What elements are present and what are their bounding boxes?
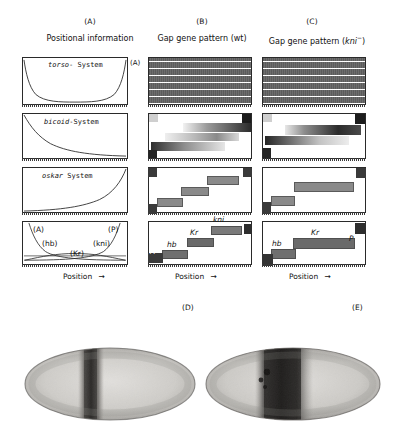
axis-label-b-text: Position bbox=[175, 272, 204, 281]
axis-label-c-text: Position bbox=[289, 272, 318, 281]
label-oskar-system: oskar System bbox=[42, 172, 93, 180]
panel-torso-baseline bbox=[22, 104, 128, 107]
kni-gene-label-hb: hb bbox=[272, 239, 282, 248]
embryo-tag-d: (D) bbox=[182, 303, 194, 312]
figure-root: (A) (B) (C) Positional information Gap g… bbox=[0, 0, 400, 446]
wt-step-kni bbox=[207, 176, 239, 185]
axis-label-c: Position → bbox=[289, 272, 331, 281]
kni-grad-ant-tip bbox=[263, 114, 272, 122]
kni-gene-label-p: P bbox=[349, 234, 354, 243]
axis-arrow-b-icon: → bbox=[211, 272, 217, 281]
label-bicoid-system: bicoid-System bbox=[44, 118, 99, 126]
column-tag-a: (A) bbox=[40, 17, 140, 26]
panel-kni-stripes bbox=[262, 57, 366, 105]
kni-grad-hb bbox=[265, 136, 349, 145]
embryo-d-svg bbox=[22, 330, 198, 438]
label-oskar-name: oskar bbox=[42, 172, 63, 180]
wt-grad-post-tip bbox=[242, 114, 251, 123]
kni-gene-label-kr: Kr bbox=[311, 228, 319, 237]
wt-gene-block-p bbox=[244, 224, 252, 234]
kni-grad-post-tip bbox=[355, 114, 365, 124]
summary-label-kni: (kni) bbox=[93, 239, 110, 248]
summary-label-hb: (hb) bbox=[42, 239, 57, 248]
panel-oskar-baseline bbox=[22, 212, 128, 215]
label-torso-name: torso bbox=[48, 61, 69, 69]
column-title-c: Gap gene pattern (kni−) bbox=[242, 34, 392, 46]
embryo-image-e bbox=[203, 330, 383, 438]
panel-wt-genes bbox=[148, 221, 252, 265]
kni-grad-kr bbox=[285, 125, 361, 135]
wt-grad-kr bbox=[165, 133, 239, 141]
kni-step-hb bbox=[271, 196, 295, 206]
wt-gene-block-hb bbox=[162, 250, 188, 259]
axis-label-b: Position → bbox=[175, 272, 217, 281]
wt-grad-ant-tip bbox=[149, 114, 158, 122]
panel-a-corner-tag: (A) bbox=[130, 59, 140, 67]
column-title-c-suffix: ) bbox=[362, 37, 365, 46]
axis-arrow-a-icon: → bbox=[99, 272, 105, 281]
wt-gene-label-kr: Kr bbox=[190, 228, 198, 237]
column-tag-b: (B) bbox=[152, 17, 252, 26]
label-torso-suffix: - System bbox=[69, 61, 103, 69]
panel-wt-staircase bbox=[148, 167, 252, 213]
wt-grad-kni bbox=[183, 123, 251, 132]
label-bicoid-name: bicoid bbox=[44, 118, 69, 126]
kni-gene-block-kr bbox=[293, 238, 355, 249]
wt-gene-block-kni bbox=[211, 226, 242, 235]
axis-label-a: Position → bbox=[63, 272, 105, 281]
kni-gene-block-p bbox=[355, 223, 366, 234]
summary-label-kr: (Kr) bbox=[70, 249, 84, 258]
column-title-c-prefix: Gap gene pattern ( bbox=[269, 37, 345, 46]
label-oskar-suffix: System bbox=[63, 172, 93, 180]
panel-wt-gradients bbox=[148, 113, 252, 159]
label-bicoid-suffix: -System bbox=[69, 118, 99, 126]
kni-gene-block-hb bbox=[271, 249, 296, 259]
panel-wt-gradients-baseline bbox=[148, 158, 252, 161]
wt-gene-label-a: A bbox=[150, 247, 155, 256]
kni-step-post-tip bbox=[356, 168, 366, 178]
wt-step-kr bbox=[181, 187, 209, 196]
axis-arrow-c-icon: → bbox=[325, 272, 331, 281]
embryo-image-d bbox=[22, 330, 198, 438]
kni-stripe-texture bbox=[263, 58, 365, 104]
kni-step-kr bbox=[294, 182, 354, 192]
wt-gene-label-hb: hb bbox=[167, 240, 177, 249]
wt-step-post-tip bbox=[148, 168, 157, 177]
wt-step-post-corner bbox=[243, 168, 252, 177]
panel-kni-staircase-baseline bbox=[262, 212, 366, 215]
panel-kni-gradients-baseline bbox=[262, 158, 366, 161]
panel-wt-stripes-baseline bbox=[148, 104, 252, 107]
wt-gene-block-kr bbox=[187, 238, 214, 247]
wt-stripe-texture bbox=[149, 58, 251, 104]
wt-step-hb bbox=[157, 198, 183, 207]
panel-kni-stripes-baseline bbox=[262, 104, 366, 107]
panel-wt-genes-baseline bbox=[148, 264, 252, 267]
wt-grad-hb bbox=[151, 142, 225, 151]
axis-label-a-text: Position bbox=[63, 272, 92, 281]
panel-wt-staircase-baseline bbox=[148, 212, 252, 215]
panel-summary-baseline bbox=[22, 264, 128, 267]
column-title-c-gene: kni bbox=[345, 37, 357, 46]
panel-wt-stripes bbox=[148, 57, 252, 105]
embryo-e-svg bbox=[203, 330, 383, 438]
panel-kni-genes-baseline bbox=[262, 264, 366, 267]
panel-kni-staircase bbox=[262, 167, 366, 213]
panel-kni-gradients bbox=[262, 113, 366, 159]
summary-label-anterior: (A) bbox=[33, 225, 44, 234]
label-torso-system: torso- System bbox=[48, 61, 103, 69]
embryo-tag-e: (E) bbox=[352, 303, 363, 312]
panel-bicoid-baseline bbox=[22, 158, 128, 161]
column-tag-c: (C) bbox=[262, 17, 362, 26]
wt-gene-label-kni: kni bbox=[213, 215, 224, 224]
summary-label-posterior: (P) bbox=[108, 225, 118, 234]
